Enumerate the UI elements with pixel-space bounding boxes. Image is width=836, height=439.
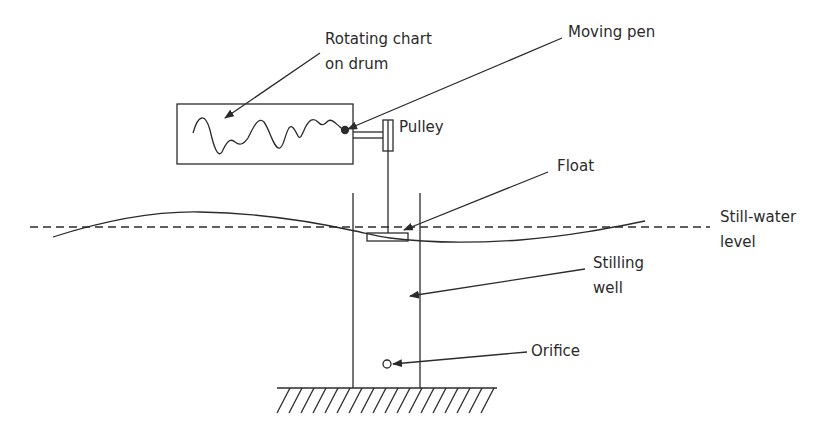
arrow-rotating-chart bbox=[225, 53, 320, 118]
label-stilling-well-line1: Stilling bbox=[593, 254, 644, 273]
label-stilling-well-line2: well bbox=[593, 279, 644, 298]
label-rotating-chart-line2: on drum bbox=[325, 55, 432, 74]
label-moving-pen: Moving pen bbox=[568, 23, 655, 42]
label-orifice: Orifice bbox=[531, 342, 580, 361]
orifice bbox=[383, 360, 391, 368]
tide-gauge-diagram: Rotating chart on drum Moving pen Pulley… bbox=[0, 0, 836, 439]
label-still-water-level: Still-water level bbox=[720, 208, 796, 252]
label-rotating-chart-line1: Rotating chart bbox=[325, 30, 432, 49]
chart-trace bbox=[193, 118, 345, 154]
pen-dot bbox=[342, 127, 349, 134]
label-pulley: Pulley bbox=[399, 118, 444, 137]
chart-drum bbox=[177, 104, 353, 164]
arrow-stilling-well bbox=[410, 269, 585, 296]
arrow-orifice bbox=[393, 352, 527, 364]
ground-hatching bbox=[277, 388, 494, 413]
label-rotating-chart: Rotating chart on drum bbox=[325, 30, 432, 74]
label-still-water-line1: Still-water bbox=[720, 208, 796, 227]
arrow-float bbox=[404, 172, 548, 230]
label-float: Float bbox=[557, 157, 594, 176]
label-stilling-well: Stilling well bbox=[593, 254, 644, 298]
label-still-water-line2: level bbox=[720, 233, 796, 252]
